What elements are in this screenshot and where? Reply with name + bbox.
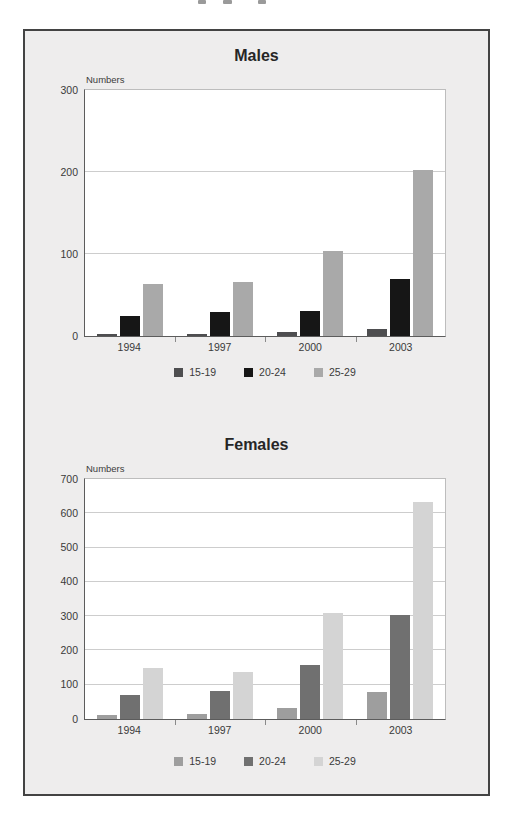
legend-label: 25-29: [329, 366, 356, 378]
bar-20-24-1997: [210, 312, 230, 336]
x-axis-tick: [356, 720, 357, 725]
legend: 15-1920-2425-29: [84, 754, 446, 768]
legend-label: 20-24: [259, 755, 286, 767]
x-axis-tick: [265, 337, 266, 342]
bar-group-1994: [85, 90, 175, 336]
figure-frame: Males Numbers 0100200300 199419972000200…: [23, 29, 490, 796]
bar-15-19-1997: [187, 334, 207, 336]
bar-25-29-1997: [233, 282, 253, 336]
bar-group-1997: [175, 479, 265, 719]
legend-item-15-19: 15-19: [174, 755, 216, 767]
plot-area: 0100200300400500600700: [84, 478, 446, 720]
x-axis-labels: 1994199720002003: [84, 337, 446, 355]
y-axis-unit-label: Numbers: [86, 74, 488, 86]
bar-25-29-1994: [143, 668, 163, 719]
y-tick-label: 100: [45, 679, 78, 690]
y-axis-unit-label: Numbers: [86, 463, 488, 475]
legend-item-25-29: 25-29: [314, 366, 356, 378]
legend-item-25-29: 25-29: [314, 755, 356, 767]
bar-15-19-2000: [277, 708, 297, 719]
bar-25-29-2000: [323, 251, 343, 336]
y-tick-label: 300: [45, 85, 78, 96]
bar-group-2003: [355, 90, 445, 336]
y-tick-label: 0: [45, 331, 78, 342]
females-chart: Females Numbers 0100200300400500600700 1…: [25, 435, 488, 768]
bar-groups: [85, 90, 445, 336]
bar-20-24-1994: [120, 316, 140, 336]
legend-swatch: [174, 368, 183, 377]
bar-group-2003: [355, 479, 445, 719]
x-tick-label: 1997: [175, 720, 266, 738]
x-axis-labels: 1994199720002003: [84, 720, 446, 738]
chart-title-males: Males: [25, 46, 488, 66]
legend-swatch: [314, 757, 323, 766]
y-tick-label: 200: [45, 645, 78, 656]
y-tick-label: 400: [45, 577, 78, 588]
y-tick-label: 300: [45, 611, 78, 622]
x-tick-label: 2000: [265, 337, 356, 355]
legend-label: 20-24: [259, 366, 286, 378]
legend-swatch: [314, 368, 323, 377]
y-tick-label: 200: [45, 167, 78, 178]
x-tick-label: 1994: [84, 337, 175, 355]
bar-15-19-1997: [187, 714, 207, 719]
bar-group-1994: [85, 479, 175, 719]
cropped-text-fragment: [0, 0, 513, 6]
legend-swatch: [174, 757, 183, 766]
legend-item-20-24: 20-24: [244, 366, 286, 378]
legend-swatch: [244, 757, 253, 766]
bar-group-1997: [175, 90, 265, 336]
bar-25-29-1994: [143, 284, 163, 336]
x-tick-label: 1997: [175, 337, 266, 355]
x-tick-label: 2003: [356, 337, 447, 355]
y-tick-label: 100: [45, 249, 78, 260]
x-axis-tick: [175, 337, 176, 342]
x-tick-label: 1994: [84, 720, 175, 738]
bar-20-24-2003: [390, 615, 410, 719]
bar-15-19-1994: [97, 715, 117, 719]
page: Males Numbers 0100200300 199419972000200…: [0, 0, 513, 823]
bar-group-2000: [265, 479, 355, 719]
bar-15-19-2003: [367, 692, 387, 719]
bar-20-24-1994: [120, 695, 140, 719]
y-tick-label: 500: [45, 542, 78, 553]
legend-item-15-19: 15-19: [174, 366, 216, 378]
legend-item-20-24: 20-24: [244, 755, 286, 767]
y-tick-label: 600: [45, 508, 78, 519]
y-tick-label: 700: [45, 474, 78, 485]
bar-15-19-1994: [97, 334, 117, 336]
legend-label: 25-29: [329, 755, 356, 767]
chart-title-females: Females: [25, 435, 488, 455]
bar-25-29-2000: [323, 613, 343, 719]
plot-area: 0100200300: [84, 89, 446, 337]
males-chart: Males Numbers 0100200300 199419972000200…: [25, 46, 488, 379]
bar-15-19-2000: [277, 332, 297, 336]
legend-label: 15-19: [189, 366, 216, 378]
bar-group-2000: [265, 90, 355, 336]
x-tick-label: 2003: [356, 720, 447, 738]
y-tick-label: 0: [45, 714, 78, 725]
x-axis-tick: [175, 720, 176, 725]
legend: 15-1920-2425-29: [84, 365, 446, 379]
bar-25-29-2003: [413, 170, 433, 336]
bar-20-24-2000: [300, 665, 320, 719]
x-axis-tick: [356, 337, 357, 342]
x-tick-label: 2000: [265, 720, 356, 738]
bar-20-24-1997: [210, 691, 230, 719]
bar-20-24-2000: [300, 311, 320, 336]
bar-25-29-2003: [413, 502, 433, 719]
legend-label: 15-19: [189, 755, 216, 767]
bar-groups: [85, 479, 445, 719]
bar-25-29-1997: [233, 672, 253, 719]
bar-20-24-2003: [390, 279, 410, 336]
legend-swatch: [244, 368, 253, 377]
x-axis-tick: [265, 720, 266, 725]
bar-15-19-2003: [367, 329, 387, 336]
